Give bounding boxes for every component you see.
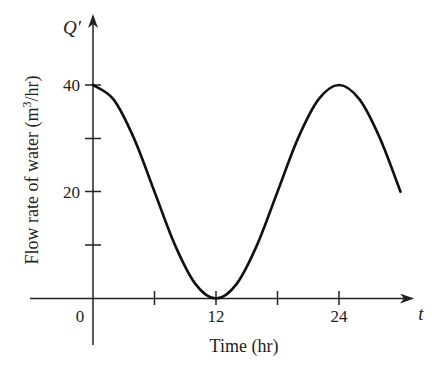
y-tick-label-20: 20 (63, 183, 80, 202)
y-axis-title: Flow rate of water (m3/hr) (20, 76, 43, 265)
y-tick-label-40: 40 (63, 76, 80, 95)
y-axis-title-end: /hr) (22, 76, 43, 102)
x-axis-title: Time (hr) (210, 336, 279, 357)
q-axis-symbol: Q′ (63, 17, 82, 38)
t-axis-symbol: t (418, 303, 424, 324)
flow-rate-curve (93, 85, 401, 299)
y-axis-title-main: Flow rate of water (m (22, 108, 43, 265)
x-tick-label-0: 0 (76, 307, 85, 326)
x-tick-label-12: 12 (208, 307, 225, 326)
x-tick-label-24: 24 (331, 307, 349, 326)
flow-rate-chart: 0 12 24 20 40 t Q′ Time (hr) Flow rate o… (0, 0, 432, 370)
